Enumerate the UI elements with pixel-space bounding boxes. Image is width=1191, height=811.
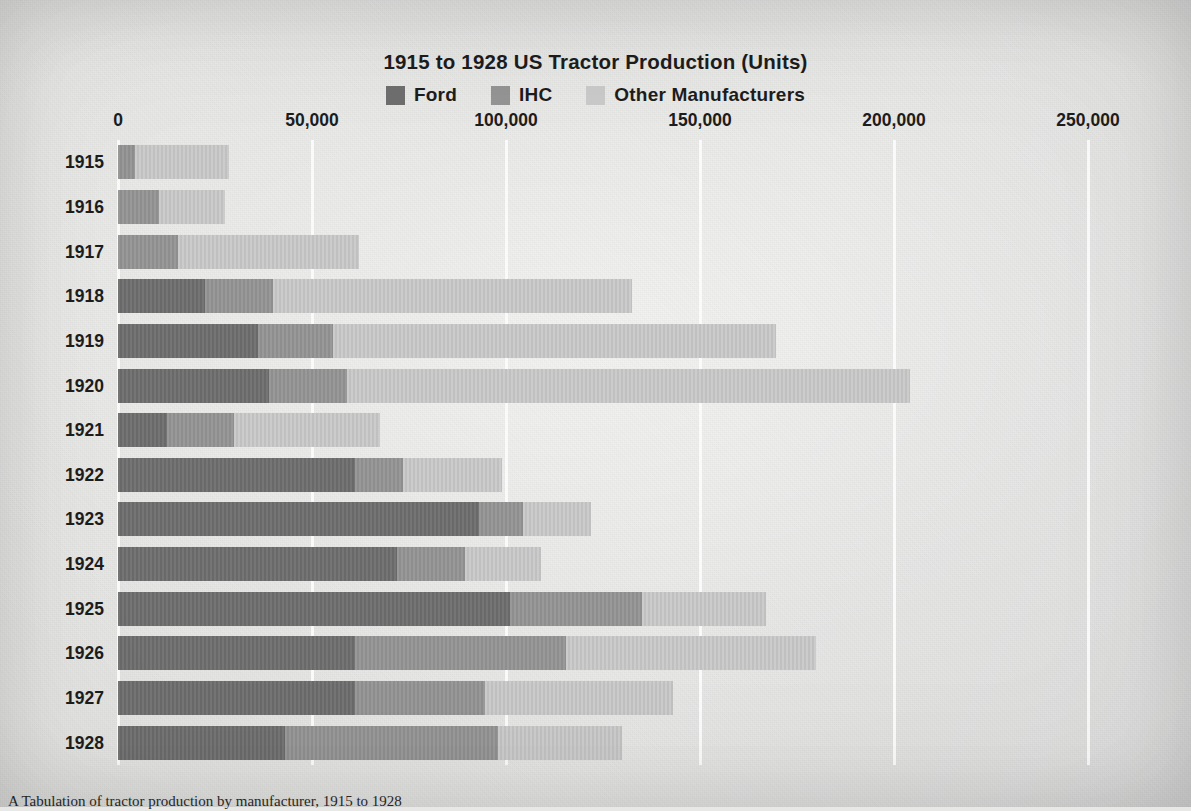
legend-label-ford: Ford xyxy=(414,84,457,106)
x-axis-tick-label: 0 xyxy=(113,110,123,131)
bar-segment-other-manufacturers[interactable] xyxy=(347,369,910,403)
bar-segment-ford[interactable] xyxy=(118,324,258,358)
legend-item-ford[interactable]: Ford xyxy=(386,84,457,106)
y-axis-tick-label: 1928 xyxy=(65,732,104,753)
bar-segment-ihc[interactable] xyxy=(479,502,524,536)
bar-segment-ihc[interactable] xyxy=(285,726,498,760)
bar-segment-other-manufacturers[interactable] xyxy=(178,235,358,269)
y-axis-tick-label: 1920 xyxy=(65,375,104,396)
bar-segment-other-manufacturers[interactable] xyxy=(465,547,541,581)
legend-item-other-manufacturers[interactable]: Other Manufacturers xyxy=(586,84,805,106)
chart-title: 1915 to 1928 US Tractor Production (Unit… xyxy=(0,50,1191,74)
bar-segment-ihc[interactable] xyxy=(118,145,135,179)
legend-swatch-ihc xyxy=(491,86,510,105)
bar-segment-ihc[interactable] xyxy=(258,324,334,358)
bar-row[interactable]: 1923 xyxy=(118,502,1088,536)
bar-segment-ihc[interactable] xyxy=(355,458,404,492)
bar-segment-other-manufacturers[interactable] xyxy=(234,413,380,447)
y-axis-tick-label: 1927 xyxy=(65,688,104,709)
legend-item-ihc[interactable]: IHC xyxy=(491,84,552,106)
bar-row[interactable]: 1919 xyxy=(118,324,1088,358)
y-axis-tick-label: 1915 xyxy=(65,152,104,173)
y-axis-tick-label: 1917 xyxy=(65,241,104,262)
bar-row[interactable]: 1920 xyxy=(118,369,1088,403)
bar-segment-ford[interactable] xyxy=(118,369,269,403)
y-axis-tick-label: 1924 xyxy=(65,554,104,575)
y-axis-tick-label: 1922 xyxy=(65,464,104,485)
bar-segment-ford[interactable] xyxy=(118,547,397,581)
bar-row[interactable]: 1926 xyxy=(118,636,1088,670)
bar-row[interactable]: 1925 xyxy=(118,592,1088,626)
y-axis-tick-label: 1919 xyxy=(65,330,104,351)
bar-segment-ihc[interactable] xyxy=(269,369,347,403)
bar-segment-ford[interactable] xyxy=(118,592,510,626)
y-axis-tick-label: 1921 xyxy=(65,420,104,441)
legend-swatch-ford xyxy=(386,86,405,105)
bar-row[interactable]: 1921 xyxy=(118,413,1088,447)
y-axis-tick-label: 1926 xyxy=(65,643,104,664)
bar-segment-ford[interactable] xyxy=(118,636,355,670)
bar-segment-ihc[interactable] xyxy=(118,235,178,269)
bar-segment-ihc[interactable] xyxy=(355,681,485,715)
bar-segment-other-manufacturers[interactable] xyxy=(498,726,622,760)
bar-segment-ford[interactable] xyxy=(118,458,355,492)
bar-segment-other-manufacturers[interactable] xyxy=(333,324,775,358)
bar-row[interactable]: 1922 xyxy=(118,458,1088,492)
bar-row[interactable]: 1927 xyxy=(118,681,1088,715)
bar-segment-ihc[interactable] xyxy=(205,279,273,313)
bar-segment-ford[interactable] xyxy=(118,681,355,715)
x-axis-tick-label: 50,000 xyxy=(285,110,339,131)
plot-area: 050,000100,000150,000200,000250,00019151… xyxy=(118,140,1088,765)
bar-row[interactable]: 1916 xyxy=(118,190,1088,224)
legend-swatch-other-manufacturers xyxy=(586,86,605,105)
y-axis-tick-label: 1918 xyxy=(65,286,104,307)
x-axis-tick-label: 250,000 xyxy=(1056,110,1119,131)
figure-caption: A Tabulation of tractor production by ma… xyxy=(8,793,1183,811)
bar-row[interactable]: 1917 xyxy=(118,235,1088,269)
bar-segment-ihc[interactable] xyxy=(167,413,235,447)
bar-segment-other-manufacturers[interactable] xyxy=(566,636,816,670)
x-axis-tick-label: 150,000 xyxy=(668,110,731,131)
bar-segment-ihc[interactable] xyxy=(355,636,566,670)
bar-segment-ford[interactable] xyxy=(118,413,167,447)
bar-segment-ford[interactable] xyxy=(118,726,285,760)
bar-segment-other-manufacturers[interactable] xyxy=(485,681,673,715)
bar-segment-other-manufacturers[interactable] xyxy=(135,145,228,179)
bar-row[interactable]: 1915 xyxy=(118,145,1088,179)
y-axis-tick-label: 1916 xyxy=(65,196,104,217)
y-axis-tick-label: 1923 xyxy=(65,509,104,530)
bar-segment-other-manufacturers[interactable] xyxy=(403,458,502,492)
legend-label-other-manufacturers: Other Manufacturers xyxy=(614,84,805,106)
bar-segment-other-manufacturers[interactable] xyxy=(273,279,632,313)
bar-segment-ihc[interactable] xyxy=(118,190,159,224)
chart-legend: Ford IHC Other Manufacturers xyxy=(0,84,1191,106)
x-axis-tick-label: 200,000 xyxy=(862,110,925,131)
legend-label-ihc: IHC xyxy=(519,84,552,106)
bar-segment-ford[interactable] xyxy=(118,279,205,313)
bar-segment-ihc[interactable] xyxy=(397,547,465,581)
bar-segment-other-manufacturers[interactable] xyxy=(642,592,766,626)
bar-row[interactable]: 1918 xyxy=(118,279,1088,313)
bar-segment-ihc[interactable] xyxy=(510,592,642,626)
bar-row[interactable]: 1924 xyxy=(118,547,1088,581)
y-axis-tick-label: 1925 xyxy=(65,598,104,619)
bar-segment-ford[interactable] xyxy=(118,502,479,536)
bar-segment-other-manufacturers[interactable] xyxy=(159,190,225,224)
bar-row[interactable]: 1928 xyxy=(118,726,1088,760)
bar-segment-other-manufacturers[interactable] xyxy=(523,502,591,536)
x-axis-tick-label: 100,000 xyxy=(474,110,537,131)
